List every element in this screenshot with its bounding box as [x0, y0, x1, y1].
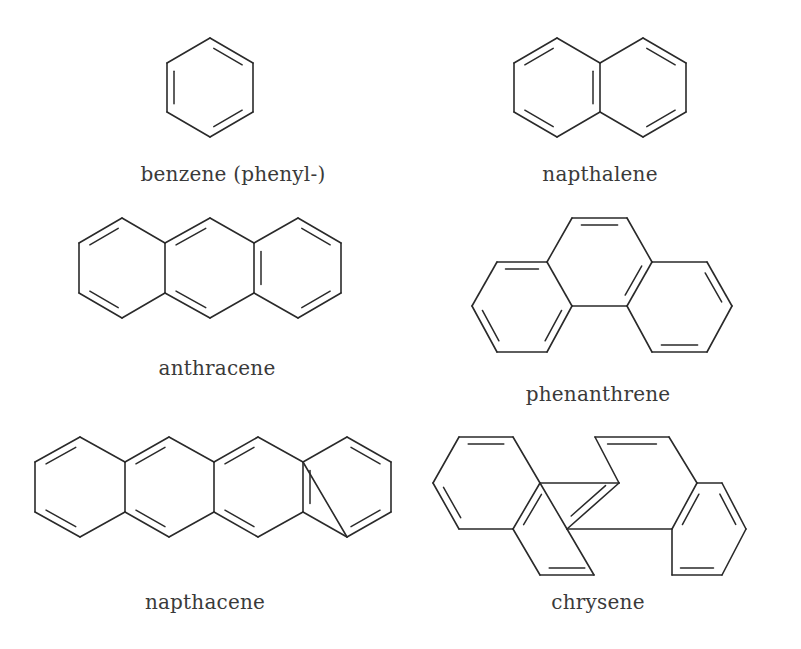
label-napthalene: napthalene: [542, 162, 657, 186]
structure-napthalene: [514, 38, 686, 137]
label-napthacene: napthacene: [145, 590, 265, 614]
label-benzene: benzene (phenyl-): [141, 162, 326, 186]
double-bond-line: [647, 110, 675, 127]
bond-line: [547, 262, 572, 306]
double-bond-line: [176, 228, 206, 245]
bond-line: [513, 529, 540, 575]
bond-line: [258, 512, 303, 537]
bond-line: [433, 437, 459, 483]
bond-line: [254, 218, 298, 243]
double-bond-line: [525, 48, 553, 65]
bond-line: [258, 437, 303, 462]
bond-line: [557, 112, 600, 137]
structure-chrysene: [433, 437, 746, 575]
double-bond-line: [351, 510, 380, 527]
bond-line: [627, 306, 652, 352]
bond-line: [303, 437, 347, 462]
double-bond-line: [136, 510, 165, 527]
bond-line: [122, 218, 165, 243]
bond-line: [80, 437, 125, 462]
double-bond-line: [46, 447, 76, 464]
label-chrysene: chrysene: [551, 590, 644, 614]
double-bond-line: [225, 510, 254, 527]
structure-napthacene: [35, 437, 391, 537]
bond-line: [210, 218, 254, 243]
double-bond-line: [90, 228, 118, 245]
bond-line: [669, 437, 697, 483]
bond-line: [627, 218, 652, 262]
double-bond-line: [225, 447, 254, 464]
double-bond-line: [46, 510, 76, 527]
bond-line: [169, 437, 214, 462]
double-bond-line: [214, 110, 242, 127]
double-bond-line: [482, 310, 499, 340]
structure-phenanthrene: [472, 218, 732, 352]
bond-line: [567, 483, 619, 529]
bond-line: [122, 293, 165, 318]
diagram-canvas: [0, 0, 801, 649]
double-bond-line: [176, 291, 206, 308]
double-bond-line: [136, 447, 165, 464]
bond-line: [167, 112, 210, 137]
structure-benzene: [167, 38, 253, 137]
double-bond-line: [682, 494, 699, 524]
double-bond-line: [90, 291, 118, 308]
double-bond-line: [647, 48, 675, 65]
double-bond-line: [625, 266, 642, 295]
double-bond-line: [571, 486, 605, 516]
structure-anthracene: [79, 218, 341, 318]
label-phenanthrene: phenanthrene: [526, 382, 671, 406]
double-bond-line: [444, 487, 461, 517]
bond-line: [433, 483, 459, 529]
bond-line: [210, 293, 254, 318]
double-bond-line: [302, 228, 330, 245]
bond-line: [167, 38, 210, 63]
bond-line: [600, 38, 643, 63]
bond-line: [513, 437, 540, 483]
bond-line: [540, 483, 567, 529]
bond-line: [80, 512, 125, 537]
bond-line: [547, 218, 572, 262]
bond-line: [557, 38, 600, 63]
bond-line: [169, 512, 214, 537]
double-bond-line: [302, 291, 330, 308]
label-anthracene: anthracene: [159, 356, 276, 380]
double-bond-line: [545, 310, 562, 340]
double-bond-line: [720, 494, 736, 524]
bond-line: [254, 293, 298, 318]
double-bond-line: [525, 110, 553, 127]
double-bond-line: [351, 447, 380, 464]
bond-line: [707, 306, 732, 352]
double-bond-line: [524, 494, 542, 524]
bond-line: [472, 262, 497, 306]
double-bond-line: [705, 273, 722, 302]
bond-line: [513, 483, 540, 529]
bond-line: [722, 529, 746, 575]
double-bond-line: [214, 48, 242, 65]
bond-line: [600, 112, 643, 137]
